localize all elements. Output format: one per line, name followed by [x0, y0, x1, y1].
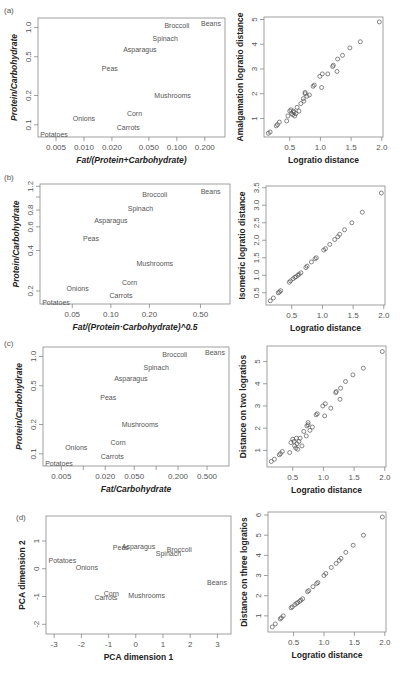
y-tick-label: 0.2 [24, 89, 33, 101]
data-point [338, 397, 342, 401]
y-axis: -2-101PCA dimension 2 [17, 538, 46, 628]
x-axis: 0.51.01.52.0Logratio distance [284, 137, 388, 165]
label-corn: Corn [122, 279, 137, 286]
panel-d-scatter: 0.51.01.52.0Logratio distance123456Dista… [239, 512, 391, 660]
panel-b-scatter: 0.51.01.52.0Logratio distance0.51.01.52.… [237, 182, 390, 333]
y-tick-label: 1.0 [24, 21, 33, 33]
food-labels: BeansBroccoliSpinachAsparagusPeasMushroo… [45, 349, 225, 467]
y-axis-title: PCA dimension 2 [17, 540, 27, 610]
data-point [331, 63, 335, 67]
y-tick-label: 3.5 [252, 182, 261, 194]
data-point [304, 434, 308, 438]
label-potatoes: Potatoes [45, 460, 73, 467]
y-axis: 0.10.20.51.0Protein/Carbohydrate [9, 21, 38, 130]
y-axis: 12345Distance on two logratios [238, 355, 267, 459]
x-tick-label: 0.5 [286, 311, 298, 320]
y-tick-label: 0 [32, 566, 41, 571]
x-tick-label: 3 [215, 640, 220, 649]
data-point [343, 228, 347, 232]
x-tick-label: 1.0 [315, 143, 327, 152]
y-axis-title: Distance on two logratios [238, 355, 248, 459]
data-point [289, 606, 293, 610]
y-tick-label: 5 [254, 532, 263, 537]
y-tick-label: 0.4 [26, 244, 35, 256]
food-labels: BeansBroccoliSpinachAsparagusPeasMushroo… [40, 20, 221, 138]
plot-frame [264, 17, 383, 137]
y-tick-label: 1.5 [252, 252, 261, 264]
x-tick-label: 0.050 [124, 472, 145, 481]
y-axis: 0.51.01.52.02.53.03.5Isometric logratio … [237, 182, 266, 300]
label-spinach: Spinach [156, 550, 181, 558]
y-tick-label: 2 [253, 425, 262, 430]
panel-a-scatter: 0.51.01.52.0Logratio distance12345Amalga… [235, 12, 388, 165]
x-tick-label: 0.005 [46, 143, 67, 152]
label-carrots: Carrots [117, 124, 140, 131]
label-corn: Corn [127, 110, 142, 117]
data-point [306, 590, 310, 594]
data-point [271, 296, 275, 300]
label-broccoli: Broccoli [162, 351, 187, 358]
x-tick-label: 1.5 [349, 473, 361, 482]
data-point [300, 444, 304, 448]
x-axis: 0.0050.0200.0500.2000.500Fat/Carbohydrat… [51, 466, 217, 494]
y-tick-label: 0.2 [26, 285, 35, 297]
label-mushrooms: Mushrooms [154, 92, 191, 99]
data-point [285, 119, 289, 123]
data-point [350, 221, 354, 225]
y-axis-title: Distance on three logratios [239, 517, 249, 627]
data-point [336, 57, 340, 61]
x-tick-label: 1 [161, 640, 166, 649]
figure-canvas: 0.0050.0100.0200.0500.1000.200Fat/(Prote… [0, 0, 408, 675]
data-point [358, 40, 362, 44]
x-axis: 0.51.01.52.0Logratio distance [286, 305, 390, 333]
x-axis-title: Logratio distance [288, 155, 359, 165]
x-axis-title: PCA dimension 1 [104, 652, 174, 662]
y-tick-label: -1 [32, 592, 41, 600]
y-tick-label: 1.2 [26, 180, 35, 192]
label-peas: Peas [102, 65, 118, 72]
y-axis-title: Protein/Carbohydrate [14, 363, 24, 450]
data-point [380, 515, 384, 519]
x-axis-title: Fat/(Protein·Carbohydrate)^0.5 [73, 322, 198, 332]
x-tick-label: 0.05 [64, 310, 80, 319]
data-point [344, 380, 348, 384]
y-axis-title: Isometric logratio distance [237, 191, 247, 299]
label-carrots: Carrots [101, 453, 124, 460]
data-point [361, 533, 365, 537]
x-axis-title: Logratio distance [291, 485, 362, 495]
label-spinach: Spinach [153, 35, 178, 43]
data-point [273, 622, 277, 626]
y-tick-label: 0.1 [24, 119, 33, 131]
data-point [311, 585, 315, 589]
label-broccoli: Broccoli [164, 22, 189, 29]
y-tick-label: 1 [254, 613, 263, 618]
panel-c-scatter: 0.51.01.52.0Logratio distance12345Distan… [238, 346, 391, 495]
x-axis: 0.0050.0100.0200.0500.1000.200Fat/(Prote… [46, 137, 215, 165]
data-point [307, 589, 311, 593]
y-tick-label: 2 [254, 593, 263, 598]
points [266, 20, 381, 135]
data-point [326, 72, 330, 76]
data-point [323, 402, 327, 406]
y-tick-label: 3 [254, 573, 263, 578]
x-tick-label: -3 [51, 640, 59, 649]
x-tick-label: 0.050 [139, 143, 160, 152]
y-tick-label: 1 [32, 538, 41, 543]
x-tick-label: 1.5 [346, 143, 358, 152]
plot-frame [38, 18, 225, 137]
y-axis: 0.20.40.60.81.2Protein/Carbohydrate [11, 180, 40, 296]
data-point [339, 386, 343, 390]
label-potatoes: Potatoes [49, 557, 77, 564]
x-tick-label: 1.0 [318, 473, 330, 482]
y-tick-label: 0.5 [252, 287, 261, 299]
data-point [302, 99, 306, 103]
label-carrots: Carrots [110, 292, 133, 299]
x-tick-label: 0.5 [288, 638, 300, 647]
data-point [302, 429, 306, 433]
y-tick-label: 1.0 [29, 350, 38, 362]
y-tick-label: -2 [32, 620, 41, 628]
data-point [310, 425, 314, 429]
x-tick-label: -2 [78, 640, 86, 649]
plot-frame [266, 186, 385, 305]
data-point [351, 543, 355, 547]
